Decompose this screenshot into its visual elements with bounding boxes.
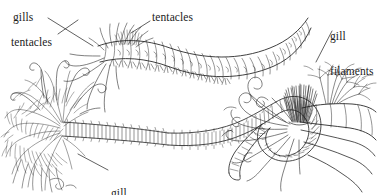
label-tentacles-middle: tentacles — [152, 12, 193, 24]
label-gill-filaments-right-line1: gill — [330, 31, 374, 43]
figure-container: gills tentacles tentacles gill filaments… — [0, 0, 379, 195]
label-gill-filaments-right-line2: filaments — [330, 66, 374, 78]
label-gills: gills — [13, 12, 33, 24]
label-tentacles-left: tentacles — [11, 37, 52, 49]
illustration-canvas — [0, 0, 379, 195]
label-gill-filaments-bottom: gill filaments — [111, 164, 155, 195]
label-gill-filaments-right: gill filaments — [330, 7, 374, 101]
label-gill-filaments-bottom-line1: gill — [111, 188, 155, 195]
